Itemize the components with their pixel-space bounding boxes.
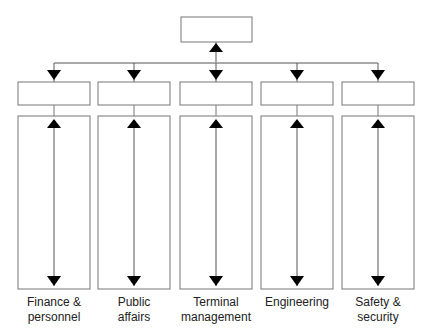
department-label-line1: Engineering xyxy=(252,295,342,310)
arrow-down-icon xyxy=(47,70,61,80)
arrow-up-icon xyxy=(209,43,223,52)
department-label-line1: Finance & xyxy=(9,295,99,310)
arrow-down-icon xyxy=(290,70,304,80)
department-header-box xyxy=(180,82,252,105)
arrow-down-icon xyxy=(371,70,385,80)
department-label: Engineering xyxy=(252,295,342,310)
department-label-line2: affairs xyxy=(89,310,179,325)
department-header-box xyxy=(261,82,333,105)
department-label-line1: Terminal xyxy=(171,295,261,310)
top-box xyxy=(181,17,252,42)
department-label: Safety &security xyxy=(333,295,423,325)
department-label-line2: management xyxy=(171,310,261,325)
department-label: Publicaffairs xyxy=(89,295,179,325)
arrow-down-icon xyxy=(127,70,141,80)
department-header-box xyxy=(18,82,90,105)
arrow-down-icon xyxy=(209,70,223,80)
department-label-line2: security xyxy=(333,310,423,325)
department-label-line1: Public xyxy=(89,295,179,310)
org-diagram xyxy=(0,0,431,332)
department-label-line2: personnel xyxy=(9,310,99,325)
department-header-box xyxy=(342,82,414,105)
department-label-line1: Safety & xyxy=(333,295,423,310)
department-header-box xyxy=(98,82,170,105)
department-label: Finance &personnel xyxy=(9,295,99,325)
department-label: Terminalmanagement xyxy=(171,295,261,325)
